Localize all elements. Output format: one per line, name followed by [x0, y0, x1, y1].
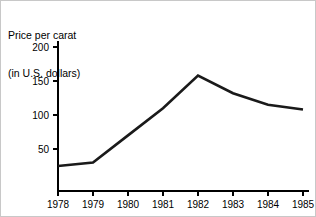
- x-tick-label: 1983: [222, 199, 245, 210]
- x-axis-tick-labels: 19781979198019811982198319841985: [47, 199, 315, 210]
- y-axis-tick-labels: 50100150200: [32, 42, 49, 155]
- y-tick-label: 100: [32, 110, 49, 121]
- x-tick-label: 1979: [82, 199, 105, 210]
- y-tick-label: 50: [38, 144, 50, 155]
- x-tick-label: 1980: [117, 199, 140, 210]
- x-tick-label: 1982: [187, 199, 210, 210]
- x-tick-label: 1978: [47, 199, 70, 210]
- price-per-carat-line: [58, 76, 303, 166]
- y-tick-label: 200: [32, 42, 49, 53]
- x-tick-label: 1984: [257, 199, 280, 210]
- y-tick-label: 150: [32, 76, 49, 87]
- x-tick-label: 1985: [292, 199, 315, 210]
- line-chart-plot: 50100150200 1978197919801981198219831984…: [1, 1, 316, 217]
- x-tick-label: 1981: [152, 199, 175, 210]
- chart-figure: Price per carat (in U.S. dollars) 501001…: [0, 0, 316, 217]
